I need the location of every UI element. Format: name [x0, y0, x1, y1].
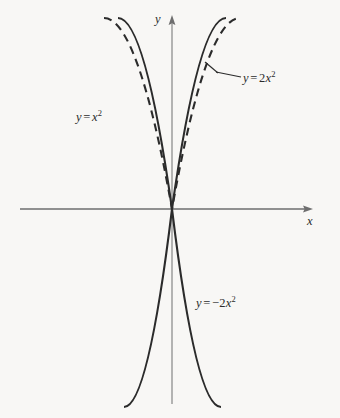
- label-2x2-lhs: y: [243, 71, 249, 85]
- y-axis-label: y: [155, 12, 161, 27]
- x-axis-label: x: [307, 214, 313, 229]
- label-2x2-exponent: 2: [271, 69, 275, 79]
- label-m2x2-operator: =: [202, 296, 212, 310]
- label-m2x2-lhs: y: [196, 296, 202, 310]
- parabola-figure: y=2x2 y=x2 y=−2x2 y x: [0, 0, 340, 418]
- label-curve-minus-2x-squared: y=−2x2: [196, 296, 236, 311]
- label-x2-lhs: y: [76, 110, 82, 124]
- label-x2-operator: =: [82, 110, 92, 124]
- label-m2x2-coefficient: −2: [212, 296, 226, 310]
- leader-tick-mark: [205, 62, 218, 73]
- x-axis: [20, 206, 313, 213]
- label-curve-x-squared: y=x2: [76, 110, 102, 125]
- label-curve-2x-squared: y=2x2: [243, 71, 276, 86]
- leader-line-2x-squared: [205, 62, 241, 77]
- y-axis-arrowhead: [169, 15, 176, 25]
- plot-canvas: [0, 0, 340, 418]
- label-2x2-operator: =: [249, 71, 259, 85]
- label-m2x2-exponent: 2: [231, 294, 235, 304]
- leader-line-segment: [216, 72, 241, 77]
- label-x2-exponent: 2: [98, 108, 102, 118]
